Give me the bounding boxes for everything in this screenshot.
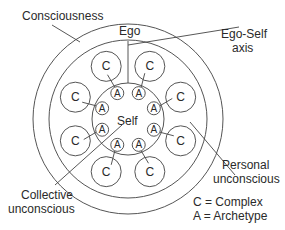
complex-label: C xyxy=(102,59,111,73)
archetype-label: A xyxy=(151,103,158,114)
complex-label: C xyxy=(71,134,80,148)
ego-self-axis-pointer xyxy=(128,30,221,45)
legend-complex: C = Complex xyxy=(193,195,263,209)
consciousness-label: Consciousness xyxy=(22,9,103,23)
collective-unconscious-label-2: unconscious xyxy=(8,202,75,216)
collective-unconscious-label-1: Collective xyxy=(21,188,73,202)
ego-self-axis-label-2: axis xyxy=(232,41,253,55)
archetype-label: A xyxy=(99,124,106,135)
archetype-label: A xyxy=(135,139,142,150)
ego-self-axis-label-1: Ego-Self xyxy=(221,27,268,41)
ego-label: Ego xyxy=(119,24,141,38)
personal-unconscious-label-1: Personal xyxy=(222,158,269,172)
archetype-label: A xyxy=(135,88,142,99)
personal-unconscious-label-2: unconscious xyxy=(213,172,280,186)
complex-label: C xyxy=(145,165,154,179)
archetype-label: A xyxy=(151,124,158,135)
complex-label: C xyxy=(71,90,80,104)
legend-archetype: A = Archetype xyxy=(193,209,268,223)
complex-label: C xyxy=(176,90,185,104)
complex-label: C xyxy=(102,165,111,179)
self-label: Self xyxy=(117,114,138,128)
archetype-label: A xyxy=(114,88,121,99)
complex-label: C xyxy=(145,59,154,73)
archetype-label: A xyxy=(99,103,106,114)
archetype-label: A xyxy=(114,139,121,150)
consciousness-pointer xyxy=(52,25,80,42)
psyche-diagram: CACACACACACACACA Consciousness Ego Ego-S… xyxy=(0,0,285,230)
complex-label: C xyxy=(176,134,185,148)
